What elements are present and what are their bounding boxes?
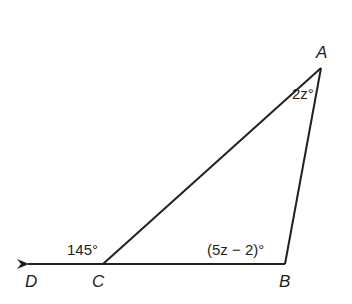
vertex-c-label: C [92,273,104,290]
vertex-d-label: D [25,273,37,290]
side-ca [103,68,321,264]
exterior-angle-c-label: 145° [67,242,98,257]
triangle-diagram: A B C D 2z° (5z − 2)° 145° [0,0,352,304]
vertex-b-label: B [279,273,290,290]
angle-a-label: 2z° [292,86,314,101]
angle-b-label: (5z − 2)° [207,242,264,257]
triangle-figure [0,0,352,304]
vertex-a-label: A [316,44,327,61]
